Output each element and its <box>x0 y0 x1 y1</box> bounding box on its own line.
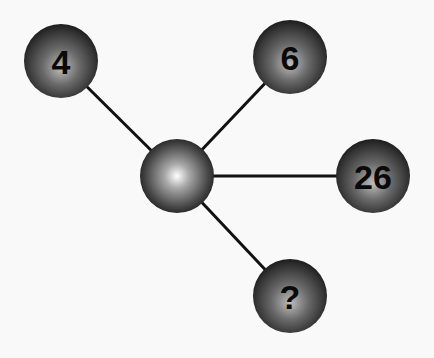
puzzle-diagram: 4626? <box>0 0 434 358</box>
node-label: 4 <box>52 43 71 81</box>
outer-node: 6 <box>253 20 327 94</box>
node-label: 6 <box>281 39 300 77</box>
node-label: ? <box>280 278 301 316</box>
connector-lines <box>61 57 373 296</box>
node-label: 26 <box>354 158 392 196</box>
outer-node: 4 <box>24 24 98 98</box>
outer-node: ? <box>253 259 327 333</box>
center-node <box>140 139 214 213</box>
diagram-svg: 4626? <box>0 0 434 358</box>
outer-node: 26 <box>336 139 410 213</box>
